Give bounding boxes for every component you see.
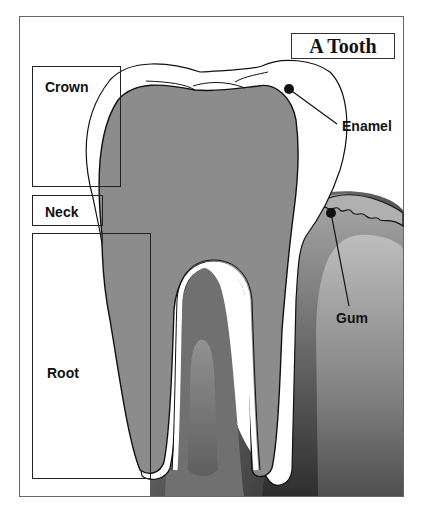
tooth-diagram: [0, 0, 421, 516]
label-root: Root: [47, 365, 79, 381]
label-crown: Crown: [45, 79, 89, 95]
label-enamel: Enamel: [342, 118, 392, 134]
gum-light-bone: [316, 235, 403, 496]
diagram-title: A Tooth: [309, 35, 376, 58]
label-neck: Neck: [45, 204, 78, 220]
title-box: A Tooth: [291, 33, 395, 59]
label-gum: Gum: [336, 310, 368, 326]
